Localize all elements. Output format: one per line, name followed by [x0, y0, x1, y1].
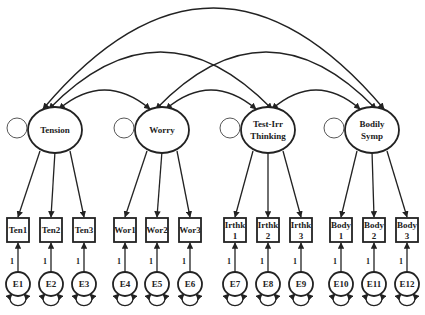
error-E4: 1E4 — [113, 243, 137, 306]
loading-path — [18, 151, 40, 217]
loading-path — [157, 151, 162, 217]
indicator-label: Body — [397, 220, 418, 230]
covariance-testirr-bodily — [272, 90, 360, 109]
error-E1: 1E1 — [6, 243, 30, 306]
error-label: E4 — [120, 279, 131, 289]
error-label: E5 — [152, 279, 163, 289]
error-E12: 1E12 — [395, 243, 419, 306]
variance-loop — [220, 118, 240, 138]
error-path-label: 1 — [182, 257, 186, 266]
indicator-label: Irthk — [225, 220, 246, 230]
error-path-label: 1 — [293, 257, 297, 266]
error-path-label: 1 — [399, 257, 403, 266]
indicator-5: Wor3 — [179, 218, 201, 242]
indicator-7: Irthk2 — [257, 218, 279, 242]
factor-label: Test-Irr — [253, 119, 283, 129]
indicator-10: Body2 — [363, 218, 385, 242]
error-label: E6 — [185, 279, 196, 289]
factor-loadings — [18, 151, 407, 217]
error-path-label: 1 — [333, 257, 337, 266]
indicator-3: Wor1 — [114, 218, 136, 242]
loading-path — [372, 151, 374, 217]
factor-label: Thinking — [250, 131, 286, 141]
error-label: E3 — [79, 279, 90, 289]
covariance-worry-bodily — [156, 52, 376, 109]
factor-ellipse — [345, 107, 399, 153]
factor-label: Symp — [361, 131, 383, 141]
error-path-label: 1 — [76, 257, 80, 266]
factor-bodily: BodilySymp — [324, 107, 399, 153]
error-label: E7 — [230, 279, 241, 289]
covariance-tension-testirr — [49, 52, 272, 109]
indicator-0: Ten1 — [7, 218, 29, 242]
error-terms: 1E11E21E31E41E51E61E71E81E91E101E111E12 — [6, 243, 419, 306]
error-E5: 1E5 — [145, 243, 169, 306]
loading-path — [70, 151, 84, 217]
error-label: E8 — [263, 279, 274, 289]
error-label: E9 — [296, 279, 307, 289]
error-E9: 1E9 — [289, 243, 313, 306]
error-label: E1 — [13, 279, 24, 289]
factor-label: Worry — [149, 125, 175, 135]
indicator-label: Wor1 — [114, 225, 136, 235]
error-E10: 1E10 — [329, 243, 353, 306]
factor-tension: Tension — [7, 107, 82, 153]
variance-loop — [324, 118, 344, 138]
covariance-tension-worry — [59, 90, 150, 109]
error-E7: 1E7 — [223, 243, 247, 306]
covariance-arcs — [43, 8, 384, 109]
error-E6: 1E6 — [178, 243, 202, 306]
indicator-2: Ten3 — [73, 218, 95, 242]
indicators: Ten1Ten2Ten3Wor1Wor2Wor3Irthk1Irthk2Irth… — [7, 218, 418, 242]
indicator-8: Irthk3 — [290, 218, 312, 242]
loading-path — [177, 151, 190, 217]
latent-factors: TensionWorryTest-IrrThinkingBodilySymp — [7, 107, 399, 153]
indicator-label: 3 — [405, 231, 410, 241]
indicator-label: 3 — [299, 231, 304, 241]
error-E11: 1E11 — [362, 243, 386, 306]
indicator-label: Wor2 — [146, 225, 168, 235]
indicator-label: Ten2 — [42, 225, 61, 235]
error-label: E11 — [367, 279, 382, 289]
indicator-label: 2 — [372, 231, 377, 241]
factor-testirr: Test-IrrThinking — [220, 107, 295, 153]
indicator-6: Irthk1 — [224, 218, 246, 242]
error-path-label: 1 — [149, 257, 153, 266]
error-label: E12 — [399, 279, 415, 289]
error-path-label: 1 — [117, 257, 121, 266]
indicator-label: Irthk — [291, 220, 312, 230]
error-path-label: 1 — [10, 257, 14, 266]
factor-label: Bodily — [359, 119, 385, 129]
error-path-label: 1 — [366, 257, 370, 266]
loading-path — [125, 151, 147, 217]
covariance-worry-testirr — [166, 90, 256, 109]
indicator-label: Ten3 — [75, 225, 94, 235]
loading-path — [235, 151, 253, 217]
cfa-path-diagram: TensionWorryTest-IrrThinkingBodilySymp T… — [0, 0, 425, 315]
indicator-label: Ten1 — [9, 225, 28, 235]
indicator-1: Ten2 — [40, 218, 62, 242]
indicator-label: 1 — [233, 231, 238, 241]
error-E8: 1E8 — [256, 243, 280, 306]
indicator-4: Wor2 — [146, 218, 168, 242]
variance-loop — [7, 118, 27, 138]
error-label: E2 — [46, 279, 57, 289]
indicator-label: 2 — [266, 231, 271, 241]
factor-worry: Worry — [114, 107, 189, 153]
loading-path — [51, 151, 55, 217]
indicator-label: Wor3 — [179, 225, 201, 235]
error-E3: 1E3 — [72, 243, 96, 306]
error-path-label: 1 — [43, 257, 47, 266]
error-E2: 1E2 — [39, 243, 63, 306]
loading-path — [387, 151, 407, 217]
indicator-label: 1 — [339, 231, 344, 241]
variance-loop — [114, 118, 134, 138]
indicator-11: Body3 — [396, 218, 418, 242]
factor-ellipse — [241, 107, 295, 153]
indicator-label: Body — [331, 220, 352, 230]
loading-path — [283, 151, 301, 217]
error-label: E10 — [333, 279, 349, 289]
indicator-label: Irthk — [258, 220, 279, 230]
covariance-tension-bodily — [43, 8, 384, 109]
error-path-label: 1 — [227, 257, 231, 266]
